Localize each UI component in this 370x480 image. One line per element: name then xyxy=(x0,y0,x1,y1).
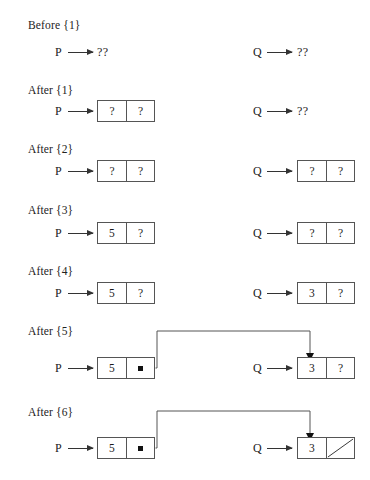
node-cell-data: 5 xyxy=(98,438,126,458)
linked-list-diagram: Before {1} P ?? Q ?? After {1} P ? ? Q ?… xyxy=(0,0,370,480)
node-cell-next xyxy=(126,438,154,458)
node-p-6: 5 xyxy=(97,437,155,459)
arrow-q-6 xyxy=(267,448,292,449)
node-cell-next-null xyxy=(326,438,354,458)
node-cell-data: 3 xyxy=(298,438,326,458)
pointer-label-p-6: P xyxy=(55,441,62,456)
null-slash-icon xyxy=(327,438,354,458)
pointer-label-q-6: Q xyxy=(253,441,262,456)
arrow-p-6 xyxy=(68,448,93,449)
link-arrow-p-next-to-q-6 xyxy=(0,0,370,480)
node-q-6: 3 xyxy=(297,437,355,459)
pointer-dot-icon xyxy=(138,446,143,451)
